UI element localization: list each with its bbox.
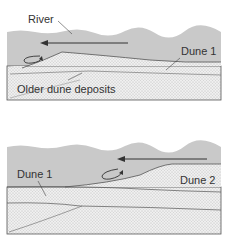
label-river: River — [28, 13, 54, 25]
label-dune-1-top: Dune 1 — [181, 45, 216, 57]
bottom-panel: Dune 1 Dune 2 — [7, 140, 221, 234]
dune-migration-diagram: River Dune 1 Older dune deposits Dune 1 … — [0, 0, 225, 236]
label-older-deposits: Older dune deposits — [17, 83, 116, 95]
top-panel: River Dune 1 Older dune deposits — [7, 13, 221, 100]
sediment-box-2 — [7, 187, 221, 234]
label-dune-2: Dune 2 — [180, 174, 215, 186]
label-dune-1-bottom: Dune 1 — [17, 168, 52, 180]
